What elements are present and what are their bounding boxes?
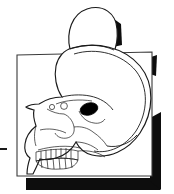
card-shadow-bottom (26, 178, 160, 190)
skull-illustration: Lateral view line drawing of a human sku… (0, 0, 174, 194)
figure-root: Lateral view line drawing of a human sku… (0, 0, 174, 194)
